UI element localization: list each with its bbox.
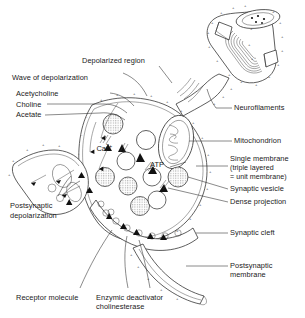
svg-text:+: +	[12, 158, 15, 163]
svg-text:+: +	[133, 91, 136, 96]
label-calcium-ion: Ca2+	[88, 133, 112, 162]
svg-text:+: +	[201, 135, 204, 140]
svg-text:+: +	[150, 93, 153, 98]
svg-text:+: +	[281, 48, 284, 53]
svg-text:+: +	[220, 10, 223, 15]
svg-text:+: +	[222, 94, 225, 99]
svg-text:+: +	[244, 3, 247, 8]
svg-text:+: +	[216, 58, 219, 63]
label-choline: Choline	[16, 101, 41, 110]
svg-text:+: +	[207, 152, 210, 157]
label-single-membrane: Single membrane	[230, 155, 289, 164]
presynaptic-terminal: ++ ++ ++ ++ ++ ++ ++ ++ -- -- -	[78, 91, 212, 245]
svg-text:+: +	[213, 101, 216, 106]
label-neurofilaments: Neurofilaments	[234, 104, 284, 113]
label-depolarized-region: Depolarized region	[82, 57, 145, 66]
svg-text:+: +	[8, 172, 11, 177]
label-acetycholine: Acetycholine	[16, 90, 59, 99]
svg-text:+: +	[209, 169, 212, 174]
svg-text:+: +	[206, 186, 209, 191]
svg-text:+: +	[192, 120, 195, 125]
svg-text:+: +	[281, 34, 284, 39]
svg-text:+: +	[166, 99, 169, 104]
label-receptor-molecule: Receptor molecule	[16, 294, 78, 303]
svg-text:+: +	[26, 147, 29, 152]
svg-text:+: +	[255, 82, 258, 87]
label-wave-of-depolarization: Wave of depolarization	[12, 74, 88, 83]
label-synaptic-cleft: Synaptic cleft	[230, 229, 275, 238]
svg-text:+: +	[130, 252, 133, 257]
synapse-diagram: ++ ++ ++ ++ ++ ++ ++ ++ ++ + ++ +	[0, 0, 305, 318]
label-synaptic-vesicle: Synaptic vesicle	[230, 185, 284, 194]
label-mitochondrion: Mitochondrion	[234, 137, 281, 146]
vesicle-clear	[137, 131, 156, 150]
svg-text:+: +	[189, 216, 192, 221]
svg-text:+: +	[160, 287, 163, 292]
label-enzymic-deactivator-line2: cholinesterase	[96, 303, 144, 312]
label-dense-projection: Dense projection	[230, 198, 286, 207]
svg-text:+: +	[230, 86, 233, 91]
calcium-charge: 2+	[106, 143, 112, 149]
label-single-membrane-line3: = unit membrane)	[230, 173, 287, 182]
svg-text:+: +	[199, 202, 202, 207]
label-postsynaptic-depolarization-line2: depolarization	[10, 212, 57, 221]
label-acetate: Acetate	[16, 111, 41, 120]
calcium-symbol: Ca	[96, 144, 106, 153]
axon-neck: ++ +	[176, 74, 233, 116]
label-atp: ATP	[150, 161, 164, 170]
svg-text:+: +	[277, 62, 280, 67]
svg-text:+: +	[279, 20, 282, 25]
label-postsynaptic-membrane-line2: membrane	[230, 271, 266, 280]
svg-text:+: +	[137, 264, 140, 269]
svg-text:+: +	[42, 142, 45, 147]
svg-text:+: +	[58, 143, 61, 148]
svg-text:+: +	[176, 296, 179, 301]
svg-text:+: +	[232, 5, 235, 10]
label-single-membrane-line2: (triple layered	[230, 164, 274, 173]
label-postsynaptic-depolarization: Postsynaptic	[10, 202, 53, 211]
